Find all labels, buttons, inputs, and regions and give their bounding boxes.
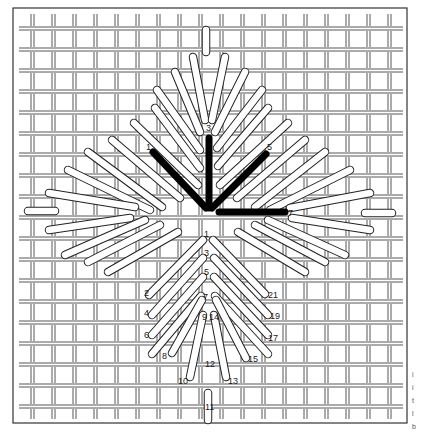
- side-char: b: [412, 420, 416, 432]
- stitch-number-label: 1: [146, 142, 151, 152]
- stitch-number-label: 13: [228, 376, 238, 386]
- stitch-number-label: 7: [288, 208, 293, 218]
- stitch-number-label: 15: [248, 354, 258, 364]
- side-char: t: [412, 394, 416, 407]
- stitch-number-label: 6: [144, 330, 149, 340]
- stitch-number-label: 5: [204, 267, 209, 277]
- stitch-number-label: 21: [268, 290, 278, 300]
- side-char: l: [412, 407, 416, 420]
- stitch-number-label: 8: [162, 351, 167, 361]
- stitch-number-label: 12: [205, 359, 215, 369]
- side-char: i: [412, 368, 416, 381]
- cropped-side-text: i i t l b: [412, 368, 416, 432]
- stitch-number-label: 10: [178, 376, 188, 386]
- stitch-number-label: 9: [202, 312, 207, 322]
- stitch-number-label: 14: [209, 312, 219, 322]
- leaf-stitch-diagram: 1357135724689141012111315171921: [0, 0, 421, 432]
- stitch-number-label: 17: [268, 333, 278, 343]
- stitch-number-label: 3: [204, 248, 209, 258]
- stitch-number-label: 1: [204, 229, 209, 239]
- stitch-number-label: 11: [205, 402, 214, 412]
- stitch-number-label: 19: [270, 311, 280, 321]
- side-char: i: [412, 381, 416, 394]
- stitch-number-label: 3: [206, 123, 211, 133]
- stitch-number-label: 5: [267, 142, 272, 152]
- stitch-number-label: 7: [203, 292, 208, 302]
- stitch-number-label: 4: [144, 308, 149, 318]
- stitch-number-label: 2: [144, 288, 149, 298]
